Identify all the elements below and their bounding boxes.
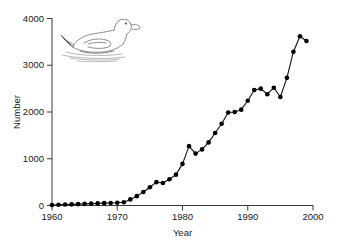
chart-axes: [47, 18, 313, 211]
data-point: [200, 147, 205, 152]
data-point: [115, 200, 120, 205]
chart-page: 0 1000 2000 3000 4000 1960 1970 1980 199…: [0, 0, 343, 243]
data-point: [95, 201, 100, 206]
line-chart: 0 1000 2000 3000 4000 1960 1970 1980 199…: [0, 0, 343, 243]
data-point: [187, 144, 192, 149]
data-point: [232, 110, 237, 115]
data-point: [304, 39, 309, 44]
y-tick-label-1000: 1000: [23, 153, 44, 164]
data-point: [69, 202, 74, 207]
x-tick-label-1980: 1980: [172, 211, 193, 222]
data-point: [291, 49, 296, 54]
x-axis-title: Year: [173, 227, 192, 238]
x-tick-label-2000: 2000: [302, 211, 323, 222]
data-point: [121, 200, 126, 205]
data-point: [174, 172, 179, 177]
data-point: [278, 95, 283, 100]
y-tick-label-3000: 3000: [23, 59, 44, 70]
y-axis-title: Number: [11, 95, 22, 129]
data-point: [259, 86, 264, 91]
data-point: [167, 177, 172, 182]
data-point: [226, 110, 231, 115]
y-tick-label-2000: 2000: [23, 106, 44, 117]
y-tick-label-4000: 4000: [23, 13, 44, 24]
y-tick-label-0: 0: [39, 200, 44, 211]
data-point: [252, 88, 257, 93]
data-point: [272, 85, 277, 90]
data-point: [219, 121, 224, 126]
x-tick-label-1970: 1970: [107, 211, 128, 222]
data-point: [56, 203, 61, 208]
data-point: [298, 34, 303, 39]
x-tick-label-1990: 1990: [237, 211, 258, 222]
data-point: [89, 201, 94, 206]
data-point: [245, 98, 250, 103]
data-point: [76, 202, 81, 207]
data-point: [82, 202, 87, 207]
data-point: [239, 107, 244, 112]
x-tick-label-1960: 1960: [41, 211, 62, 222]
data-point: [50, 203, 55, 208]
data-point: [135, 194, 140, 199]
data-point: [285, 76, 290, 81]
data-point: [193, 151, 198, 156]
data-point: [148, 185, 153, 190]
data-point: [154, 180, 159, 185]
data-point: [206, 140, 211, 145]
data-point: [180, 162, 185, 167]
data-point: [128, 197, 133, 202]
data-point: [265, 92, 270, 97]
data-point: [102, 201, 107, 206]
data-point: [161, 181, 166, 186]
duck-illustration: [61, 19, 140, 62]
data-point: [63, 202, 68, 207]
data-point: [108, 201, 113, 206]
data-point: [213, 131, 218, 136]
data-point: [141, 190, 146, 195]
